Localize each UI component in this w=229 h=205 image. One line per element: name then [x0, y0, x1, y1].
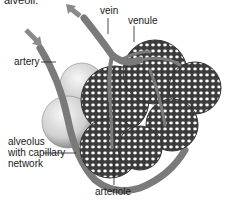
outflow-arrow-icon	[66, 4, 80, 16]
label-alveolus-2: with capillary	[8, 147, 65, 158]
label-artery: artery	[14, 56, 40, 67]
inflow-arrow-icon	[26, 30, 42, 46]
label-venule: venule	[128, 15, 157, 26]
alveoli-diagram: alveoli.	[0, 0, 229, 205]
label-alveolus-1: alveolus	[8, 136, 45, 147]
label-alveolus-3: network	[8, 158, 43, 169]
label-arteriole: arteriole	[95, 186, 131, 197]
capillary-alveoli	[80, 40, 221, 178]
label-vein: vein	[100, 5, 118, 16]
diagram-illustration	[0, 0, 229, 205]
